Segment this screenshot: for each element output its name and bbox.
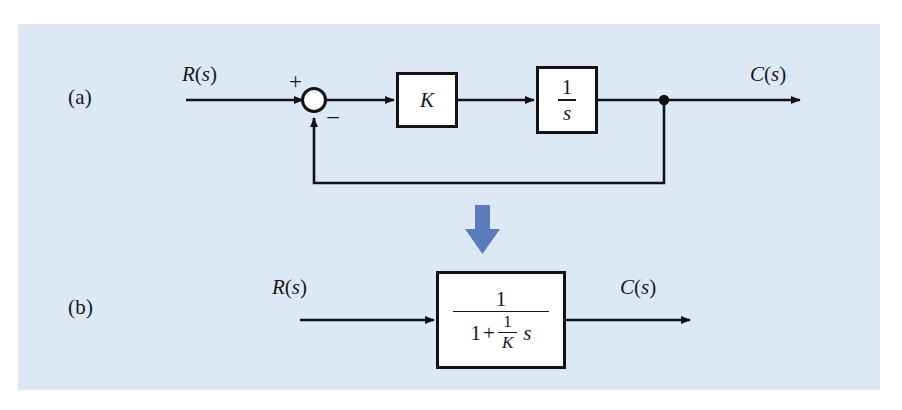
feedback-wire (314, 100, 664, 183)
summing-junction-circle (303, 89, 326, 112)
downward-transition-arrow (465, 205, 500, 254)
diagram-wiring (0, 0, 902, 410)
block-diagram-figure: (a) (b) R(s) C(s) R(s) C(s) + − K 1 s 1 (0, 0, 902, 410)
